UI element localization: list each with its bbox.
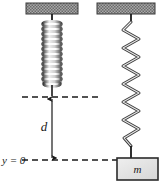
right-ceiling-support <box>97 3 155 14</box>
origin-label: y = 0 <box>1 154 26 166</box>
right-spring-stretched <box>123 22 139 146</box>
mass-label: m <box>134 163 142 175</box>
displacement-label: d <box>41 119 48 134</box>
displacement-dimension: d <box>41 99 52 158</box>
hanging-mass-block: m <box>117 158 158 180</box>
left-ceiling-support <box>26 3 78 14</box>
left-spring-relaxed <box>43 21 62 86</box>
spring-mass-figure: d y = 0 m <box>0 0 168 190</box>
figure-canvas: d y = 0 m <box>0 0 168 190</box>
support-hatch-block <box>97 3 155 14</box>
support-hatch-block <box>26 3 78 14</box>
right-panel-stretched-spring: m <box>97 3 158 180</box>
left-panel-relaxed-spring <box>22 3 101 97</box>
